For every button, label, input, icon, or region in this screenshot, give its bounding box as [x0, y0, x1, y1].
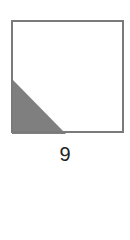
figure-label: 9 — [0, 143, 130, 166]
shaded-triangle — [12, 79, 66, 134]
